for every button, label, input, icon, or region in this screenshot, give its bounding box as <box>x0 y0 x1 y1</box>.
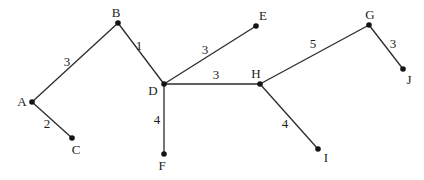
node-J-dot <box>400 66 406 72</box>
node-G-label: G <box>365 7 374 22</box>
edge-D-E <box>164 26 256 84</box>
edge-weight-B-D: 1 <box>136 38 143 53</box>
node-I-dot <box>315 146 321 152</box>
node-C-label: C <box>72 142 81 157</box>
node-J-label: J <box>406 72 411 87</box>
edge-weight-D-H: 3 <box>213 67 220 82</box>
node-H-dot <box>257 81 263 87</box>
edge-A-B <box>32 23 118 102</box>
edge-weight-D-E: 3 <box>202 42 209 57</box>
edge-weight-A-C: 2 <box>44 116 51 131</box>
edge-weight-H-G: 5 <box>310 36 317 51</box>
node-B-label: B <box>112 5 121 20</box>
node-E-label: E <box>259 8 267 23</box>
edge-H-G <box>260 25 369 84</box>
node-B-dot <box>115 20 121 26</box>
edge-weight-G-J: 3 <box>390 36 397 51</box>
edge-weight-H-I: 4 <box>282 116 289 131</box>
node-A-label: A <box>17 94 27 109</box>
edge-weight-A-B: 3 <box>64 54 71 69</box>
node-H-label: H <box>251 66 260 81</box>
edge-B-D <box>118 23 164 84</box>
graph-svg: 321334543ABCDEFGHIJ <box>0 0 424 180</box>
edge-H-I <box>260 84 318 149</box>
node-I-label: I <box>324 150 328 165</box>
node-A-dot <box>29 99 35 105</box>
node-F-dot <box>161 151 167 157</box>
node-E-dot <box>253 23 259 29</box>
node-D-dot <box>161 81 167 87</box>
node-D-label: D <box>148 83 157 98</box>
edge-G-J <box>369 25 403 69</box>
node-G-dot <box>366 22 372 28</box>
edge-A-C <box>32 102 72 138</box>
node-C-dot <box>69 135 75 141</box>
edge-weight-D-F: 4 <box>154 112 161 127</box>
graph-diagram: 321334543ABCDEFGHIJ <box>0 0 424 180</box>
node-F-label: F <box>158 158 165 173</box>
